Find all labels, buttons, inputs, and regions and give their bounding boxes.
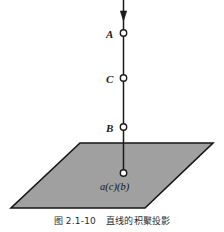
projection-point-label: a(c)(b) [100,182,129,193]
figure-caption-text: 直线的积聚投影 [106,216,170,226]
figure-caption: 图 2.1-10直线的积聚投影 [0,216,224,227]
point-marker-b [120,124,126,130]
figure-caption-number: 图 2.1-10 [54,216,96,226]
point-marker-projection [120,170,126,176]
point-marker-c [120,75,126,81]
point-label-b: B [106,123,113,134]
point-marker-a [120,30,126,36]
arrow-down-icon [120,11,126,21]
figure-container: A C B a(c)(b) 图 2.1-10直线的积聚投影 [0,0,224,232]
horizontal-projection-plane [11,143,213,208]
point-label-c: C [106,74,113,85]
point-label-a: A [106,29,113,40]
